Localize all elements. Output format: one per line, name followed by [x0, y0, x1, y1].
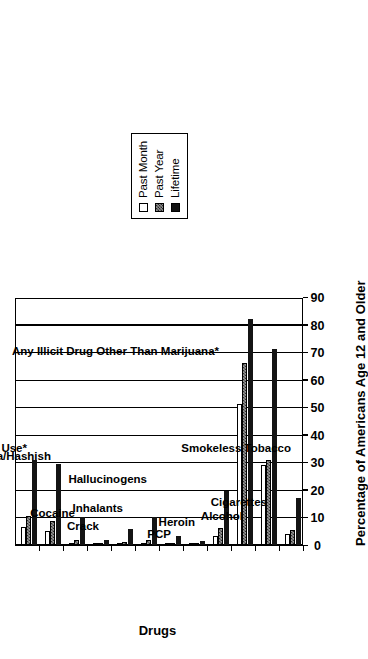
category-label: Crack: [67, 520, 99, 532]
bar: [189, 543, 194, 545]
category-axis-title: Drugs: [139, 623, 177, 638]
bar: [170, 543, 175, 545]
value-tick-label: 90: [311, 292, 325, 305]
category-label: Alcohol: [201, 510, 243, 522]
bar: [128, 529, 133, 545]
value-tick-label: 10: [311, 512, 325, 525]
value-tick-label: 70: [311, 347, 325, 360]
category-tick: [39, 546, 40, 551]
category-label: PCP: [147, 528, 171, 540]
value-tick-label: 20: [311, 484, 325, 497]
value-tick: [303, 490, 308, 491]
category-label: Smokeless Tobacco: [181, 442, 291, 454]
category-tick: [255, 546, 256, 551]
category-label: Hallucinogens: [68, 473, 147, 485]
category-tick: [207, 546, 208, 551]
bar: [117, 543, 122, 545]
legend-entry-past-year: Past Year: [153, 141, 166, 212]
value-tick-label: 80: [311, 319, 325, 332]
bar: [176, 536, 181, 545]
bar: [93, 543, 98, 545]
bar: [32, 460, 37, 545]
category-label: Inhalants: [73, 502, 123, 514]
value-tick-label: 40: [311, 429, 325, 442]
category-label: Any Illicit Drug Other Than Marijuana*: [12, 345, 219, 357]
category-tick: [111, 546, 112, 551]
bar: [296, 498, 301, 545]
bar: [218, 528, 223, 545]
white-square-icon: [139, 203, 148, 212]
bar: [69, 543, 74, 545]
category-tick: [159, 546, 160, 551]
category-tick: [279, 546, 280, 551]
bar: [21, 527, 26, 545]
category-tick: [303, 546, 304, 551]
value-tick: [303, 517, 308, 518]
value-tick: [303, 462, 308, 463]
bar: [285, 534, 290, 545]
legend-label: Lifetime: [170, 159, 182, 198]
bar: [237, 404, 242, 545]
value-tick: [303, 297, 308, 298]
value-tick-label: 30: [311, 457, 325, 470]
bar: [165, 543, 170, 545]
value-tick: [303, 324, 308, 325]
category-label: Heroin: [159, 516, 195, 528]
category-tick: [231, 546, 232, 551]
category-tick: [87, 546, 88, 551]
bar: [194, 543, 199, 545]
category-label: Cigarettes: [211, 496, 267, 508]
category-label: Cocaine: [30, 507, 75, 519]
legend-label: Past Month: [138, 141, 150, 198]
category-tick: [63, 546, 64, 551]
category-tick: [135, 546, 136, 551]
bar: [213, 536, 218, 545]
category-tick: [183, 546, 184, 551]
gridline: [15, 407, 303, 408]
value-tick: [303, 407, 308, 408]
value-tick: [303, 434, 308, 435]
bar: [98, 543, 103, 545]
gridline: [15, 380, 303, 381]
gridline: [15, 324, 303, 325]
bar: [122, 542, 127, 545]
value-tick-label: 60: [311, 374, 325, 387]
bar: [290, 530, 295, 545]
legend-entry-lifetime: Lifetime: [169, 141, 182, 212]
bar: [146, 540, 151, 545]
plot-area: 0102030405060708090 Any Illicit Drug Use…: [15, 254, 303, 546]
bar: [26, 516, 31, 545]
bar: [104, 540, 109, 545]
bar: [50, 521, 55, 545]
bar: [56, 464, 61, 545]
value-tick: [303, 379, 308, 380]
hatched-square-icon: [155, 203, 164, 212]
bar: [248, 319, 253, 545]
value-tick: [303, 352, 308, 353]
chart-legend: Past Month Past Year Lifetime: [131, 133, 188, 219]
category-label: Marijuana/Hashish: [0, 450, 51, 462]
value-tick-label: 0: [314, 540, 321, 553]
gridline: [15, 435, 303, 436]
legend-label: Past Year: [154, 150, 166, 198]
bar: [45, 531, 50, 545]
value-axis-title: Percentage of Americans Age 12 and Older: [353, 298, 368, 546]
bar: [74, 540, 79, 545]
black-square-icon: [171, 203, 180, 212]
legend-entry-past-month: Past Month: [137, 141, 150, 212]
value-tick-label: 50: [311, 402, 325, 415]
bar: [200, 541, 205, 545]
bar: [141, 543, 146, 545]
